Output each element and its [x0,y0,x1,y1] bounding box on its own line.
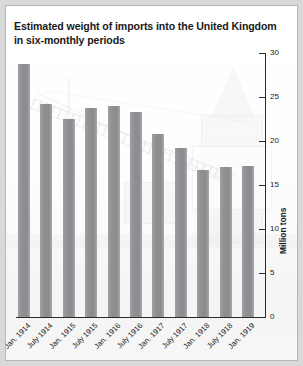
bar [130,112,142,317]
bar [152,134,164,317]
bar [40,104,52,317]
y-axis-title: Million tons [278,207,288,254]
y-axis-line [265,53,266,318]
bar [175,148,187,317]
chart-panel: Estimated weight of imports into the Uni… [5,5,298,361]
y-axis-tick-label: 30 [270,49,279,57]
y-axis-tick-label: 5 [270,269,274,277]
plot-area: 051015202530 Jan. 1914July 1914Jan. 1915… [6,6,298,361]
chart-figure: Estimated weight of imports into the Uni… [0,0,303,366]
bar [242,166,254,317]
bar [18,64,30,317]
x-axis-line [16,317,266,318]
bar [63,119,75,317]
bar [220,167,232,317]
bar [85,108,97,317]
y-axis-tick-label: 20 [270,137,279,145]
bar [197,170,209,317]
y-axis-tick-label: 25 [270,93,279,101]
bar [108,106,120,317]
y-axis-tick-label: 15 [270,181,279,189]
y-axis-tick-label: 0 [270,313,274,321]
